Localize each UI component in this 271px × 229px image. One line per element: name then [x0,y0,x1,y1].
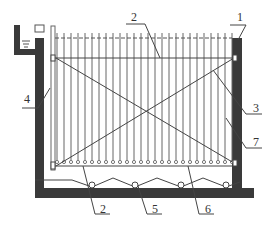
rod-foot [160,160,163,163]
rod-foot [209,160,212,163]
rod-foot [55,160,58,163]
right-wall [232,38,242,198]
rod-foot [216,160,219,163]
rod-foot [125,160,128,163]
label-2-top: 2 [131,10,137,24]
rod-foot [174,160,177,163]
rod-foot [104,160,107,163]
bracket-top-right [233,55,237,61]
label-4: 4 [24,92,30,106]
bracket-bottom-left [51,162,55,169]
nozzle [132,182,138,188]
label-2-bottom: 2 [100,202,106,216]
rod-foot [69,160,72,163]
rod-foot [167,160,170,163]
floor-extension [242,188,254,198]
floor [35,188,254,198]
rod-foot [181,160,184,163]
rod-foot [90,160,93,163]
rod-foot [111,160,114,163]
rod-foot [153,160,156,163]
nozzle [178,182,184,188]
rod-foot [132,160,135,163]
label-5: 5 [152,202,158,216]
frame-post [51,26,55,170]
label-3: 3 [253,101,259,115]
rod-foot [146,160,149,163]
label-7: 7 [253,135,259,149]
rod-foot [223,160,226,163]
rod-foot [195,160,198,163]
nozzle [223,182,229,188]
rod-foot [97,160,100,163]
rod-foot [139,160,142,163]
inlet-channel [14,25,44,198]
vertical-rods [55,33,233,164]
rod-foot [202,160,205,163]
diagram-canvas: 12342567 [0,0,271,229]
nozzle [89,182,95,188]
bracket-bottom-right [233,160,237,166]
label-6: 6 [205,202,211,216]
nozzles [89,182,229,188]
rod-foot [188,160,191,163]
label-1: 1 [237,10,243,24]
rod-foot [118,160,121,163]
rod-foot [76,160,79,163]
rod-foot [83,160,86,163]
bracket-top-left [51,55,55,61]
